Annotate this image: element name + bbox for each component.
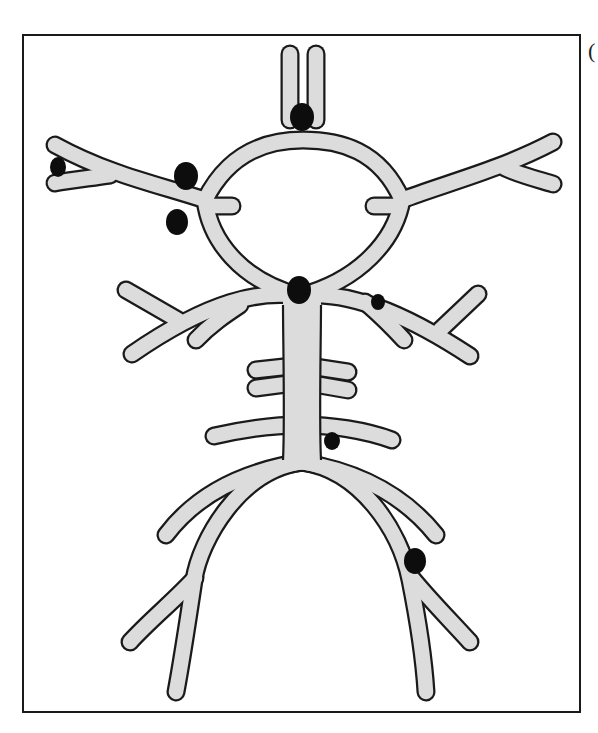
- aneurysm-left-mca-distal: [50, 157, 66, 177]
- aneurysm-left-ica-pcom: [166, 209, 188, 235]
- basilar-trunk: [283, 300, 321, 462]
- aneurysm-right-pcom: [371, 294, 385, 310]
- aneurysm-acom: [290, 103, 314, 131]
- aneurysm-right-vertebral: [404, 548, 426, 574]
- aneurysm-basilar-trunk: [324, 432, 340, 450]
- circle-of-willis-diagram: [0, 0, 598, 733]
- aneurysm-basilar-tip: [287, 276, 311, 304]
- aneurysm-left-mca-proximal: [174, 162, 198, 190]
